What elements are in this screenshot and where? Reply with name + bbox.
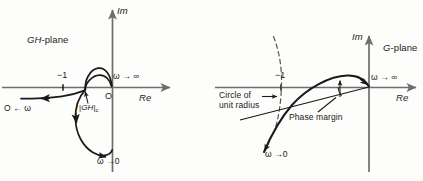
left-horizontal-branch bbox=[21, 91, 84, 99]
left-omega-from-origin-label: O ← ω bbox=[4, 104, 31, 114]
left-omega-zero-label: ω →0 bbox=[97, 157, 120, 167]
left-real-axis-label: Re bbox=[139, 93, 151, 104]
left-origin-label: O bbox=[105, 91, 112, 101]
left-lobe-direction-arrow bbox=[76, 113, 77, 123]
right-plane-label: G-plane bbox=[383, 43, 418, 54]
right-imaginary-axis-label: Im bbox=[352, 32, 363, 43]
left-critical-point-label: −1 bbox=[57, 70, 67, 80]
right-unit-circle-arc bbox=[274, 37, 282, 129]
left-omega-infinity-label: ω → ∞ bbox=[113, 72, 139, 82]
right-phase-margin-label: Phase margin bbox=[289, 113, 343, 123]
left-gain-magnitude-leader bbox=[85, 92, 88, 104]
left-imaginary-axis-label: Im bbox=[117, 6, 128, 17]
left-plane-label: GH-plane bbox=[27, 35, 68, 46]
right-critical-point-label: −1 bbox=[275, 70, 285, 80]
figure-canvas bbox=[0, 0, 423, 181]
right-unit-circle-label: Circle of unit radius bbox=[219, 91, 259, 110]
right-real-axis-label: Re bbox=[396, 93, 408, 104]
nyquist-figure: GH-plane Im Re −1 O ω → ∞ ω →0 O ← ω |GH… bbox=[0, 0, 423, 181]
right-omega-zero-label: ω →0 bbox=[265, 150, 288, 160]
right-omega-infinity-label: ω → ∞ bbox=[371, 73, 397, 83]
left-gain-magnitude-label: |GH|c bbox=[79, 104, 99, 114]
